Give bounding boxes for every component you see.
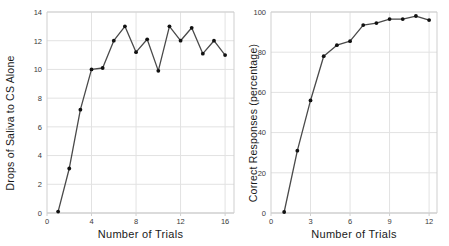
data-point-marker [388,17,392,21]
data-point-marker [145,37,149,41]
x-tick-label: 12 [176,217,184,226]
y-tick-label: 12 [34,37,42,46]
x-tick-label: 9 [387,217,391,226]
data-point-marker [374,21,378,25]
x-axis-label-left: Number of Trials [47,228,234,240]
chart-panel-right: Correct Responses (percentage) 020406080… [240,0,449,246]
data-point-marker [67,167,71,171]
y-tick-label: 10 [34,65,42,74]
y-tick-label: 20 [258,169,266,178]
data-point-marker [212,39,216,43]
x-tick-label: 8 [134,217,138,226]
x-axis-label-right: Number of Trials [271,228,437,240]
y-tick-label: 60 [258,88,266,97]
data-point-marker [309,99,313,103]
data-point-marker [168,24,172,28]
data-point-marker [322,54,326,58]
data-point-marker [361,23,365,27]
x-tick-label: 4 [89,217,93,226]
data-point-marker [427,18,431,22]
data-point-marker [156,69,160,73]
y-tick-label: 14 [34,8,42,17]
plot-area-right: 020406080100036912 [240,0,449,246]
data-point-marker [282,210,286,214]
data-point-marker [201,52,205,56]
y-tick-label: 2 [38,180,42,189]
y-tick-label: 0 [262,209,266,218]
y-tick-label: 4 [38,151,42,160]
data-point-marker [101,66,105,70]
data-point-marker [112,39,116,43]
x-tick-label: 3 [308,217,312,226]
x-tick-label: 6 [348,217,352,226]
plot-area-left: 024681012140481216 [0,0,240,246]
y-tick-label: 100 [253,8,266,17]
data-point-marker [348,39,352,43]
figure-container: Drops of Saliva to CS Alone 024681012140… [0,0,449,246]
data-point-marker [134,50,138,54]
data-point-marker [179,39,183,43]
x-tick-label: 16 [221,217,229,226]
x-tick-label: 0 [45,217,49,226]
data-point-marker [56,210,60,214]
x-tick-label: 12 [425,217,433,226]
data-point-marker [223,53,227,57]
data-point-marker [190,26,194,30]
y-tick-label: 80 [258,48,266,57]
data-point-marker [123,24,127,28]
data-point-marker [295,149,299,153]
data-point-marker [414,14,418,18]
y-tick-label: 6 [38,123,42,132]
data-point-marker [90,68,94,72]
chart-panel-left: Drops of Saliva to CS Alone 024681012140… [0,0,240,246]
y-tick-label: 0 [38,209,42,218]
y-tick-label: 40 [258,128,266,137]
data-series-line [284,16,429,212]
data-point-marker [78,108,82,112]
y-tick-label: 8 [38,94,42,103]
x-tick-label: 0 [269,217,273,226]
data-point-marker [401,17,405,21]
data-series-line [58,26,225,211]
data-point-marker [335,43,339,47]
